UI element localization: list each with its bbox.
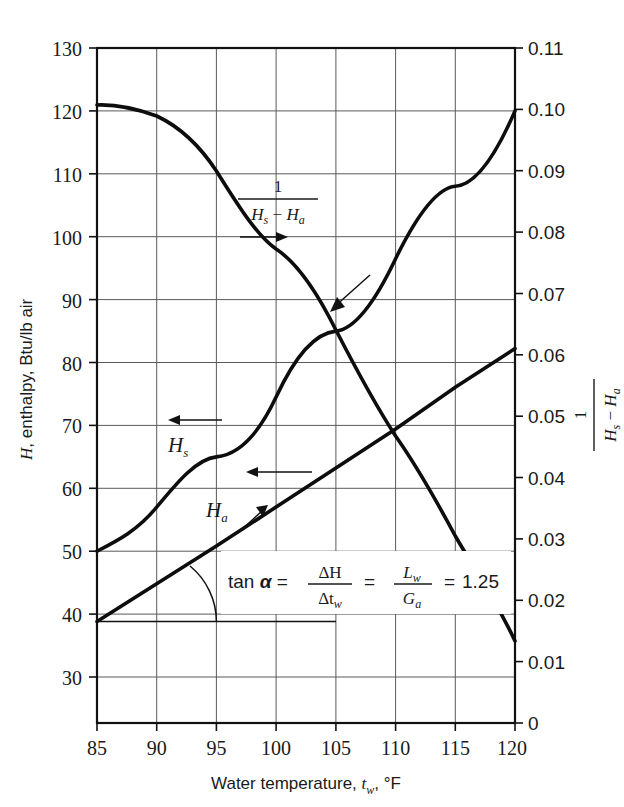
right-tick-label: 0.06 <box>528 345 565 366</box>
right-axis-title-denominator: Hs − Ha <box>601 388 623 442</box>
annotation-Hs-label: Hs <box>167 415 222 460</box>
annotation-inverse-enthalpy-label: 1 Hs − Ha <box>238 177 318 242</box>
curve-label-Hs: Hs <box>167 433 188 460</box>
bottom-tick-label: 100 <box>261 737 291 759</box>
bottom-tick-label: 115 <box>441 737 470 759</box>
equation-equals-2: = <box>364 571 375 592</box>
right-tick-label: 0.02 <box>528 590 565 611</box>
arrowhead-left <box>246 467 258 477</box>
figure-canvas: 130 120 110 100 90 80 70 60 50 40 30 0.1… <box>0 0 624 807</box>
left-tick-label: 130 <box>52 38 82 60</box>
left-tick-label: 30 <box>62 667 82 689</box>
right-axis-tick-labels: 0.11 0.10 0.09 0.08 0.07 0.06 0.05 0.04 … <box>528 38 565 734</box>
equation-text: tan α = <box>228 571 288 592</box>
arrowhead-left <box>168 415 180 425</box>
bottom-axis-title-lead: Water temperature, <box>211 774 357 793</box>
right-tick-label: 0 <box>528 713 539 734</box>
right-tick-label: 0.11 <box>528 38 564 59</box>
left-tick-label: 60 <box>62 478 82 500</box>
left-axis-tick-labels: 130 120 110 100 90 80 70 60 50 40 30 <box>52 38 82 689</box>
annotation-numerator: 1 <box>274 177 283 196</box>
curve-Hs <box>97 111 515 551</box>
bottom-axis-title: Water temperature, tw, °F <box>211 774 401 797</box>
equation-equals-3: = <box>444 571 455 592</box>
right-tick-label: 0.01 <box>528 652 565 673</box>
left-tick-label: 120 <box>52 101 82 123</box>
annotation-slope-equation: tan α = ΔH Δtw = Lw Ga = 1.25 <box>221 551 511 614</box>
annotation-Ha-label: Ha <box>205 467 312 533</box>
left-tick-label: 110 <box>53 164 82 186</box>
left-tick-label: 50 <box>62 541 82 563</box>
axis-ticks <box>89 48 523 731</box>
left-tick-label: 70 <box>62 415 82 437</box>
curve-label-Ha: Ha <box>205 498 228 525</box>
left-axis-title-rest: , enthalpy, Btu/lb air <box>17 298 36 447</box>
equation-value: 1.25 <box>462 571 499 592</box>
left-tick-label: 40 <box>62 604 82 626</box>
slope-angle-arc <box>190 566 216 622</box>
annotation-denominator: Hs − Ha <box>250 205 304 227</box>
bottom-tick-label: 95 <box>206 737 226 759</box>
arrowhead-right <box>276 232 288 242</box>
svg-text:Water temperature, tw, °F: Water temperature, tw, °F <box>211 774 401 797</box>
bottom-tick-label: 110 <box>381 737 410 759</box>
right-tick-label: 0.07 <box>528 284 565 305</box>
svg-text:H, enthalpy, Btu/lb air: H, enthalpy, Btu/lb air <box>17 298 36 461</box>
bottom-tick-label: 105 <box>321 737 351 759</box>
bottom-tick-label: 85 <box>87 737 107 759</box>
bottom-axis-title-tail: , °F <box>374 774 401 793</box>
chart-svg: 130 120 110 100 90 80 70 60 50 40 30 0.1… <box>0 0 624 807</box>
right-axis-title: 1 Hs − Ha <box>571 379 623 451</box>
fraction-numerator: ΔH <box>318 563 341 582</box>
bottom-tick-label: 90 <box>147 737 167 759</box>
right-tick-label: 0.10 <box>528 99 565 120</box>
right-axis-title-numerator: 1 <box>571 411 590 420</box>
left-tick-label: 100 <box>52 227 82 249</box>
left-tick-label: 90 <box>62 290 82 312</box>
bottom-axis-tick-labels: 85 90 95 100 105 110 115 120 <box>87 737 527 759</box>
right-tick-label: 0.05 <box>528 406 565 427</box>
right-tick-label: 0.03 <box>528 529 565 550</box>
right-tick-label: 0.08 <box>528 222 565 243</box>
right-tick-label: 0.04 <box>528 468 565 489</box>
bottom-tick-label: 120 <box>497 737 527 759</box>
left-axis-title: H, enthalpy, Btu/lb air <box>17 298 36 461</box>
bottom-axis-title-subscript: w <box>366 783 374 797</box>
left-tick-label: 80 <box>62 353 82 375</box>
right-tick-label: 0.09 <box>528 161 565 182</box>
